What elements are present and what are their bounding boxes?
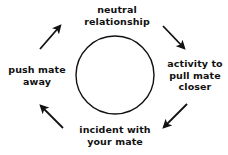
stage-label-neutral: neutral relationship	[67, 4, 167, 27]
stage-label-activity: activity to pull mate closer	[162, 58, 228, 93]
center-circle	[76, 36, 154, 114]
stage-label-push: push mate away	[4, 64, 70, 87]
arrow-incident-to-push	[41, 106, 63, 128]
arrow-neutral-to-activity	[163, 26, 184, 48]
arrow-push-to-neutral	[40, 26, 60, 49]
relationship-cycle-diagram: neutral relationship activity to pull ma…	[0, 0, 228, 155]
stage-label-incident: incident with your mate	[62, 124, 168, 147]
